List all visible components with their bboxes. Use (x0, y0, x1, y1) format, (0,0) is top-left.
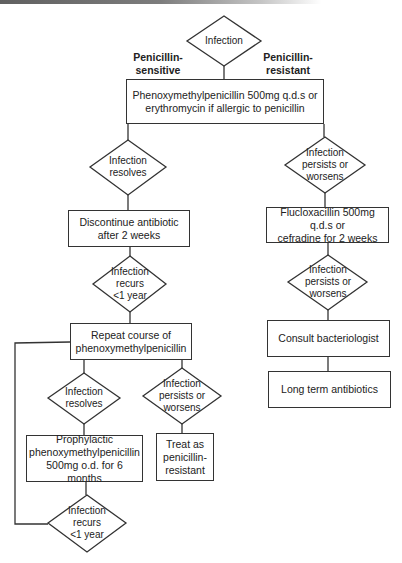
persists-2-text: Infection persists or worsens (293, 263, 363, 301)
long-term-antibiotics-box: Long term antibiotics (268, 371, 391, 408)
persists-3-text: Infection persists or worsens (147, 377, 217, 415)
prophylactic-box: Prophylactic phenoxymethylpenicillin 500… (26, 435, 143, 482)
recurs-1-text: Infection recurs <1 year (98, 265, 162, 303)
flucloxacillin-box: Flucloxacillin 500mg q.d.s or cefradine … (266, 207, 389, 243)
start-diamond-text: Infection (194, 30, 254, 52)
persists-1-text: Infection persists or worsens (290, 146, 360, 184)
first-line-treatment-box: Phenoxymethylpenicillin 500mg q.d.s or e… (126, 79, 324, 124)
treat-as-resistant-box: Treat as penicillin- resistant (156, 433, 214, 481)
repeat-course-box: Repeat course of phenoxymethylpenicillin (70, 323, 192, 360)
recurs-2-text: Infection recurs <1 year (55, 504, 119, 542)
resolves-1-text: Infection resolves (98, 153, 158, 181)
branch-label-penicillin-resistant: Penicillin- resistant (258, 51, 318, 77)
branch-label-penicillin-sensitive: Penicillin- sensitive (128, 51, 188, 77)
discontinue-antibiotic-box: Discontinue antibiotic after 2 weeks (68, 210, 190, 247)
resolves-2-text: Infection resolves (54, 384, 114, 412)
consult-bacteriologist-box: Consult bacteriologist (267, 320, 390, 357)
